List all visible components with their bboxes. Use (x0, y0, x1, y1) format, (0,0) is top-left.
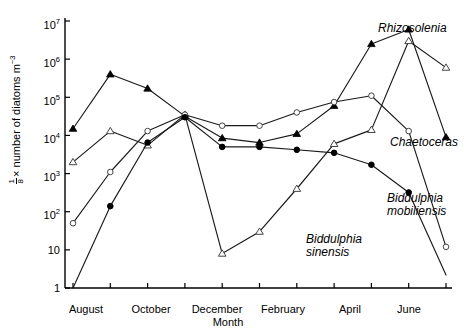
diatom-abundance-chart: 1 8 × number of diatoms m−3 107 106 105 … (0, 0, 464, 334)
series-2-point-9 (406, 128, 412, 134)
series-2-point-6 (294, 110, 300, 116)
marker-filled-circle (294, 147, 300, 153)
series-2-point-0 (70, 220, 76, 226)
axes-layer (65, 18, 452, 288)
marker-filled-circle (182, 114, 188, 120)
series-0-point-1 (107, 71, 115, 77)
series-3-point-2 (145, 140, 151, 146)
marker-filled-circle (108, 203, 114, 209)
marker-open-circle (108, 169, 114, 175)
series-1-point-4 (218, 250, 226, 256)
series-2-point-5 (257, 123, 263, 129)
series-2-point-4 (219, 123, 225, 129)
series-1-point-8 (368, 126, 376, 132)
marker-filled-triangle (107, 71, 115, 77)
series-line-2 (73, 96, 446, 247)
marker-filled-circle (331, 150, 337, 156)
marker-open-circle (406, 128, 412, 134)
series-0-point-6 (293, 130, 301, 136)
series-1-point-10 (442, 64, 450, 70)
series-2-point-10 (443, 244, 449, 250)
series-biddulphia-mobiliensis (70, 93, 449, 250)
series-1-point-1 (107, 127, 115, 133)
marker-open-triangle (442, 64, 450, 70)
series-3-point-8 (369, 162, 375, 168)
marker-filled-triangle (293, 130, 301, 136)
marker-open-circle (294, 110, 300, 116)
series-3-point-4 (219, 144, 225, 150)
marker-filled-triangle (69, 125, 77, 131)
series-layer (69, 26, 450, 288)
marker-open-circle (257, 123, 263, 129)
marker-open-triangle (218, 250, 226, 256)
marker-open-circle (369, 93, 375, 99)
marker-open-circle (443, 244, 449, 250)
series-2-point-8 (369, 93, 375, 99)
series-0-point-10 (442, 133, 450, 139)
marker-filled-triangle (405, 26, 413, 32)
marker-filled-circle (369, 162, 375, 168)
marker-filled-triangle (442, 133, 450, 139)
plot-area (0, 0, 464, 334)
marker-filled-circle (145, 140, 151, 146)
marker-filled-circle (257, 144, 263, 150)
marker-filled-circle (219, 144, 225, 150)
series-3-point-9 (406, 190, 412, 196)
marker-open-circle (331, 99, 337, 105)
marker-filled-triangle (218, 134, 226, 140)
series-3-point-7 (331, 150, 337, 156)
marker-open-triangle (368, 126, 376, 132)
series-3-point-6 (294, 147, 300, 153)
series-0-point-9 (405, 26, 413, 32)
series-0-point-4 (218, 134, 226, 140)
series-3-point-5 (257, 144, 263, 150)
series-2-point-2 (145, 128, 151, 134)
series-2-point-1 (108, 169, 114, 175)
series-3-point-1 (108, 203, 114, 209)
marker-open-circle (145, 128, 151, 134)
marker-open-triangle (107, 127, 115, 133)
series-2-point-7 (331, 99, 337, 105)
marker-open-circle (70, 220, 76, 226)
marker-open-circle (219, 123, 225, 129)
series-0-point-0 (69, 125, 77, 131)
marker-filled-circle (406, 190, 412, 196)
series-3-point-3 (182, 114, 188, 120)
